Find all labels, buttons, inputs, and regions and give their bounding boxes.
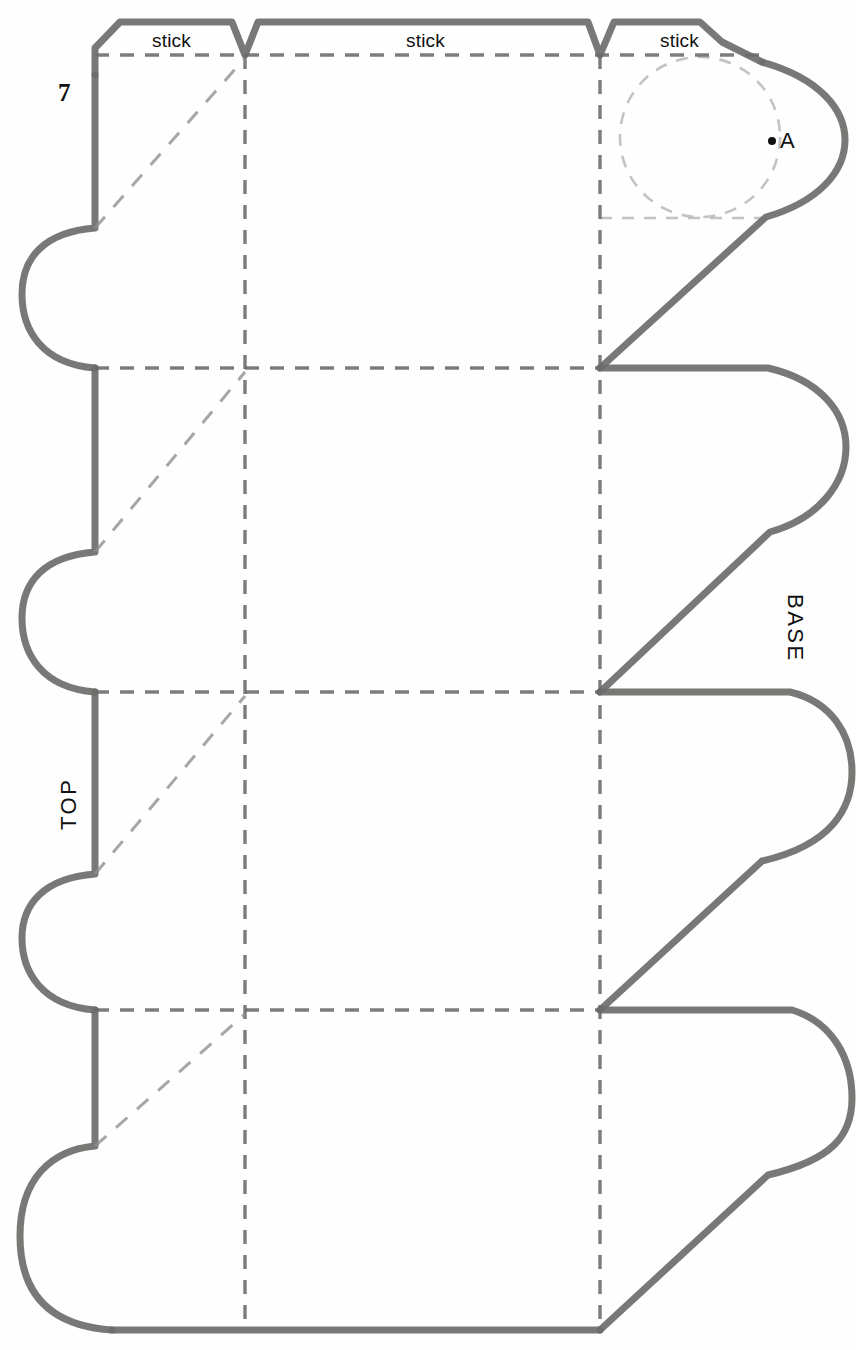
page-number: 7 [58, 80, 71, 105]
point-a-dot-icon [768, 137, 776, 145]
right-tab-2 [600, 368, 846, 692]
fold-diagonal-3 [95, 696, 245, 874]
fold-diagonal-4 [95, 1014, 245, 1146]
right-tab-1 [600, 62, 845, 368]
left-semicircle-tab-1 [22, 75, 95, 368]
stick-label-2: stick [406, 31, 445, 50]
net-diagram [0, 0, 856, 1350]
base-label: BASE [784, 594, 806, 663]
template-sheet: 7 stick stick stick TOP BASE A [0, 0, 856, 1350]
right-tab-4 [600, 1010, 852, 1330]
bottom-left-round-tab [20, 1010, 112, 1330]
right-tab-3 [600, 692, 852, 1010]
fold-diagonal-2 [95, 372, 245, 552]
point-a-label: A [780, 130, 795, 152]
ghost-circle-icon [620, 57, 780, 217]
ghost-circle-group [600, 57, 780, 218]
stick-label-3: stick [660, 31, 699, 50]
left-semicircle-tab-3 [22, 692, 95, 1010]
top-label: TOP [58, 778, 80, 830]
left-semicircle-tab-2 [22, 368, 95, 692]
fold-diagonal-1 [95, 58, 245, 228]
stick-label-1: stick [152, 31, 191, 50]
